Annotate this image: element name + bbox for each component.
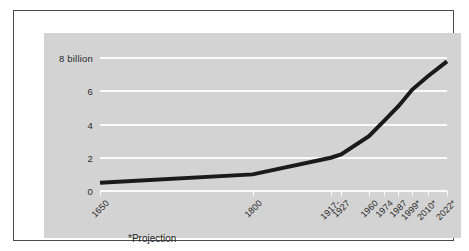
x-tick-label-2022: 2022*: [434, 198, 458, 222]
y-tick-label-4: 4: [88, 119, 93, 130]
y-tick-label-6: 6: [88, 86, 93, 97]
y-tick-label-2: 2: [88, 152, 93, 163]
figure-border: 02468 billion 165018001917-1927196019741…: [13, 10, 454, 241]
y-tick-label-8: 8 billion: [59, 53, 93, 64]
projection-footnote: *Projection: [128, 233, 176, 244]
y-tick-label-0: 0: [88, 186, 93, 197]
x-tick-2010: [428, 191, 429, 196]
series-polyline: [100, 61, 447, 182]
x-tick-1974: [384, 191, 385, 196]
x-tick-1987: [398, 191, 399, 196]
x-tick-2022: [447, 191, 448, 196]
x-tick-1927: [341, 191, 342, 196]
population-growth-figure: 02468 billion 165018001917-1927196019741…: [0, 0, 469, 251]
x-tick-1960: [369, 191, 370, 196]
x-tick-label-1800: 1800: [242, 198, 264, 220]
plot-area: 02468 billion 165018001917-1927196019741…: [100, 58, 447, 191]
x-tick-1800: [253, 191, 254, 196]
x-tick-1999: [412, 191, 413, 196]
chart-panel: 02468 billion 165018001917-1927196019741…: [44, 33, 461, 238]
x-tick-1650: [100, 191, 101, 196]
x-tick-label-1650: 1650: [90, 198, 112, 220]
population-line-series: [100, 58, 447, 191]
x-tick-1917: [331, 191, 332, 196]
